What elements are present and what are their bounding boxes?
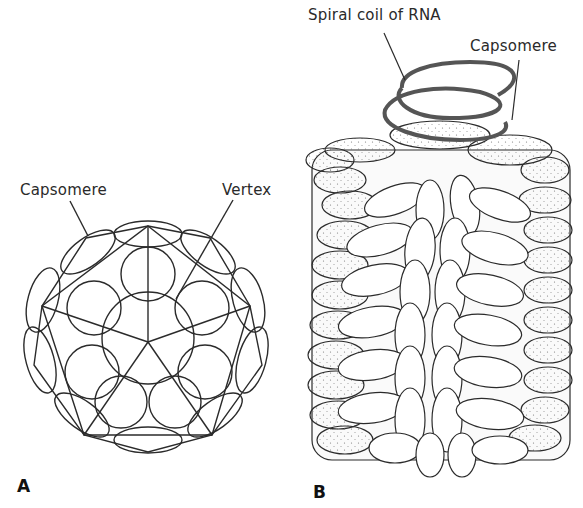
capsomere-leader-line-b — [512, 60, 519, 120]
rna-leader-line — [384, 33, 405, 80]
helical-capsid-diagram — [0, 0, 583, 508]
